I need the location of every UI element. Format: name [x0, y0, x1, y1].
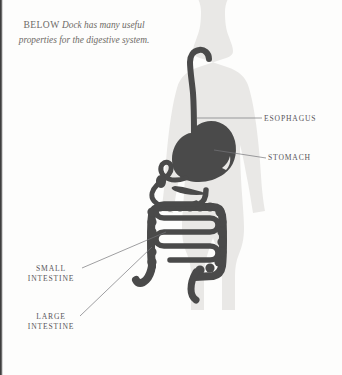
- label-small-intestine: SMALL INTESTINE: [22, 264, 80, 283]
- label-small-intestine-line2: INTESTINE: [22, 274, 80, 284]
- figure-page: BELOW Dock has many useful properties fo…: [0, 0, 342, 375]
- label-esophagus-line1: ESOPHAGUS: [264, 114, 316, 124]
- cecum-organ: [136, 266, 152, 283]
- label-stomach: STOMACH: [268, 153, 311, 163]
- label-large-intestine: LARGE INTESTINE: [22, 312, 80, 331]
- gallbladder-organ: [156, 175, 166, 188]
- label-small-intestine-line1: SMALL: [22, 264, 80, 274]
- label-large-intestine-line1: LARGE: [22, 312, 80, 322]
- body-silhouette: [130, 0, 265, 375]
- caption-kicker: BELOW: [24, 19, 60, 30]
- label-large-intestine-line2: INTESTINE: [22, 322, 80, 332]
- label-stomach-line1: STOMACH: [268, 153, 311, 163]
- label-esophagus: ESOPHAGUS: [264, 114, 316, 124]
- figure-caption: BELOW Dock has many useful properties fo…: [14, 18, 154, 47]
